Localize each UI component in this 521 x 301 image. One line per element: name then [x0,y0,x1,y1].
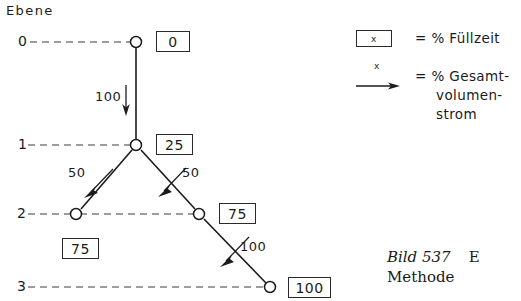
fill-time-box-level1: 25 [156,134,193,155]
legend-row-volume-flow: x = % Gesamt- volumen- strom [356,73,521,135]
node-level3 [265,282,276,293]
node-circles [71,37,276,293]
figure-canvas: Ebene 0 1 2 3 0 25 75 75 100 100 50 50 1… [0,0,521,301]
legend-label-fill-time: = % Füllzeit [415,29,500,48]
legend-label-volume-flow-line1: = % Gesamt- [415,67,510,86]
legend-label-volume-flow-line2: volumen- [436,86,503,105]
level-label-3: 3 [17,278,27,294]
legend-symbol-x: x [371,34,377,44]
flow-arrow-branch-left [84,169,113,198]
flow-label-branch-right: 50 [182,165,200,180]
fill-time-box-level2-left: 75 [62,238,99,259]
fill-time-box-level3: 100 [288,277,331,298]
legend: x = % Füllzeit x = % Gesamt- volumen- st… [356,30,521,135]
flow-label-branch-left: 50 [68,165,86,180]
node-level2-right [194,209,205,220]
legend-box-symbol: x [356,30,392,47]
node-level0 [131,37,142,48]
legend-row-fill-time: x = % Füllzeit [356,30,521,56]
caption-line-2: Methode [387,268,480,286]
axis-title: Ebene [6,3,54,18]
flow-arrow-trunk [122,85,130,116]
node-level2-left [71,209,82,220]
legend-label-volume-flow-line3: strom [436,105,477,124]
legend-arrow-x: x [374,61,380,71]
edge-level1-level2-left [81,150,132,209]
caption-trailing-word: E [469,248,480,266]
caption-line-1: Bild 537E [387,248,480,266]
fill-time-box-level2-right: 75 [219,203,256,224]
figure-caption: Bild 537E Methode [387,248,480,286]
flow-label-lower: 100 [240,239,266,254]
flow-label-trunk: 100 [95,89,121,104]
node-level1 [131,140,142,151]
level-label-2: 2 [17,205,27,221]
fill-time-box-level0: 0 [156,31,190,52]
level-label-0: 0 [18,33,28,49]
level-label-1: 1 [18,136,28,152]
caption-figure-number: Bild 537 [387,248,451,266]
